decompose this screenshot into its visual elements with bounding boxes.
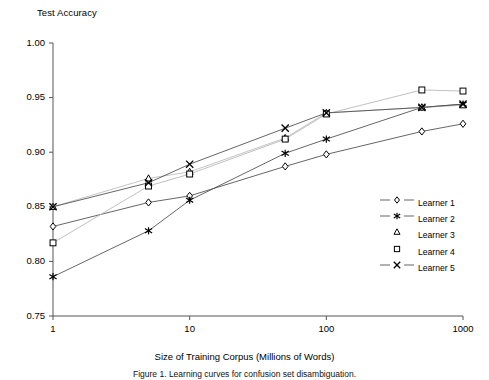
- marker-asterisk: [145, 227, 152, 234]
- y-tick-label: 0.80: [11, 255, 45, 266]
- y-tick-label: 0.85: [11, 200, 45, 211]
- y-tick-label: 0.90: [11, 146, 45, 157]
- marker-diamond: [395, 197, 400, 203]
- legend-label: Learner 3: [418, 227, 455, 243]
- legend-marker-triangle-icon: [379, 224, 415, 240]
- marker-diamond: [282, 163, 288, 170]
- marker-cross: [394, 262, 400, 268]
- marker-square: [50, 240, 56, 246]
- x-tick-label: 1000: [443, 323, 483, 334]
- legend-marker-cross-icon: [379, 257, 415, 273]
- legend-label: Learner 5: [418, 260, 455, 276]
- y-tick-label: 0.75: [11, 310, 45, 321]
- legend-label: Learner 4: [418, 244, 455, 260]
- marker-cross: [282, 125, 289, 132]
- legend-marker-diamond-icon: [379, 192, 415, 208]
- marker-diamond: [146, 199, 152, 206]
- marker-square: [394, 246, 399, 251]
- y-tick-label: 1.00: [11, 37, 45, 48]
- marker-diamond: [460, 120, 466, 127]
- x-axis-title: Size of Training Corpus (Millions of Wor…: [0, 351, 489, 362]
- x-tick-label: 100: [306, 323, 346, 334]
- marker-square: [323, 111, 329, 117]
- marker-triangle: [394, 229, 400, 235]
- marker-square: [187, 171, 193, 177]
- marker-diamond: [50, 223, 56, 230]
- marker-asterisk: [282, 150, 289, 157]
- marker-square: [419, 87, 425, 93]
- figure-caption: Figure 1. Learning curves for confusion …: [0, 369, 489, 380]
- legend-marker-square-icon: [379, 241, 415, 257]
- marker-asterisk: [49, 273, 56, 280]
- marker-asterisk: [323, 135, 330, 142]
- marker-square: [460, 88, 466, 94]
- legend-label: Learner 1: [418, 195, 455, 211]
- marker-diamond: [324, 151, 330, 158]
- marker-diamond: [419, 128, 425, 135]
- legend-marker-asterisk-icon: [379, 208, 415, 224]
- chart-container: Test Accuracy 0.750.800.850.900.951.00 1…: [0, 0, 489, 380]
- marker-square: [282, 136, 288, 142]
- marker-cross: [186, 161, 193, 168]
- marker-asterisk: [394, 213, 400, 219]
- marker-asterisk: [186, 197, 193, 204]
- x-tick-label: 10: [170, 323, 210, 334]
- y-tick-label: 0.95: [11, 91, 45, 102]
- x-tick-label: 1: [33, 323, 73, 334]
- legend-label: Learner 2: [418, 211, 455, 227]
- plot-area: [0, 0, 489, 380]
